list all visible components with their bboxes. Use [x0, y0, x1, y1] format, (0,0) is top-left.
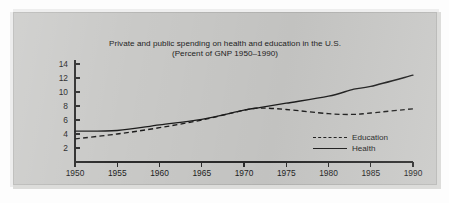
series-line-health — [75, 75, 413, 131]
legend-label-education: Education — [352, 133, 388, 142]
y-tick-label: 14 — [59, 59, 69, 69]
y-tick-label: 10 — [59, 87, 69, 97]
legend-dashed-line-icon — [313, 133, 347, 142]
y-tick-label: 2 — [63, 143, 68, 153]
y-tick-label: 6 — [63, 115, 68, 125]
panel-edge-right — [437, 12, 441, 189]
x-tick-label: 1980 — [319, 168, 338, 178]
y-tick-label: 12 — [59, 73, 69, 83]
x-tick-label: 1965 — [192, 168, 211, 178]
x-tick-label: 1960 — [150, 168, 169, 178]
y-axis-tick-labels: 2468101214 — [59, 59, 69, 153]
chart-series-lines — [75, 75, 413, 139]
chart-panel: Private and public spending on health an… — [13, 12, 437, 185]
x-tick-label: 1970 — [235, 168, 254, 178]
x-tick-label: 1985 — [361, 168, 380, 178]
x-tick-label: 1955 — [108, 168, 127, 178]
legend-item-education: Education — [313, 132, 433, 143]
y-tick-label: 4 — [63, 129, 68, 139]
x-axis-tick-labels: 195019551960196519701975198019851990 — [66, 168, 423, 178]
chart-plot-area: 2468101214 19501955196019651970197519801… — [13, 12, 437, 185]
legend-solid-line-icon — [313, 144, 347, 153]
y-tick-label: 8 — [63, 101, 68, 111]
figure-page: Private and public spending on health an… — [0, 0, 449, 203]
legend-item-health: Health — [313, 143, 433, 154]
x-tick-label: 1990 — [404, 168, 423, 178]
x-tick-label: 1975 — [277, 168, 296, 178]
chart-legend: Education Health — [313, 132, 433, 154]
panel-edge-bottom — [13, 185, 439, 189]
legend-label-health: Health — [352, 144, 375, 153]
x-tick-label: 1950 — [66, 168, 85, 178]
